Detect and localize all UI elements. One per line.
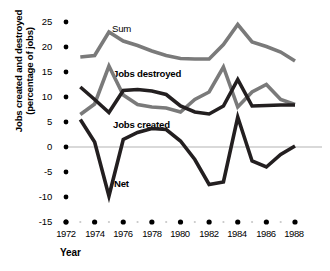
series-line-sum [80,25,295,62]
series-lines [80,25,295,197]
plot-area [0,0,330,271]
series-line-net [80,117,295,196]
x-axis-tick-dots [63,219,297,224]
y-axis-tick-dots [64,20,69,225]
jobs-created-destroyed-chart: Jobs created and destroyed (percentage o… [0,0,330,271]
